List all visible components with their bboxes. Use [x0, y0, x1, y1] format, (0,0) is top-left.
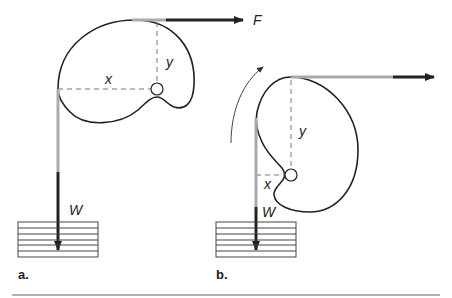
panel-label-b: b.	[216, 267, 228, 282]
cam-outline-b	[256, 77, 358, 212]
pivot-circle-a	[151, 83, 163, 95]
y-label-b: y	[298, 123, 307, 139]
y-label-a: y	[165, 54, 174, 70]
panel-label-a: a.	[18, 267, 29, 282]
force-label-f: F	[253, 12, 263, 28]
panel-b: W x y b.	[216, 67, 434, 282]
weight-label-a: W	[69, 202, 84, 218]
x-label-b: x	[263, 176, 272, 192]
pivot-circle-b	[285, 169, 297, 181]
cam-outline-a	[58, 20, 194, 123]
x-label-a: x	[104, 71, 113, 87]
panel-a: F W x y a.	[18, 12, 263, 282]
weight-label-b: W	[262, 204, 277, 220]
cam-diagram: F W x y a. W x	[0, 0, 452, 298]
